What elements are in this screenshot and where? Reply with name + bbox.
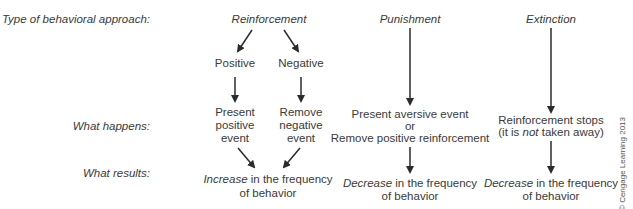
arrow-reinforcement-to-negative-icon [284, 30, 298, 51]
punishment-result-line2: of behavior [382, 190, 439, 203]
extinction-result-line2: of behavior [523, 190, 580, 203]
arrow-reinforcement-to-positive-icon [238, 30, 252, 51]
positive-happens-line2: positive [216, 119, 255, 132]
extinction-happens-emphasis: not [523, 126, 539, 138]
negative-happens-line1: Remove [280, 106, 323, 119]
reinforcement-title: Reinforcement [232, 13, 307, 26]
positive-happens-line1: Present [215, 106, 255, 119]
reinforcement-result-emphasis: Increase [203, 173, 247, 185]
punishment-result-rest: in the frequency [392, 177, 477, 189]
row-label-results: What results: [83, 167, 150, 180]
punishment-title: Punishment [380, 13, 441, 26]
arrow-present-positive-to-increase-icon [238, 148, 254, 167]
extinction-result-emphasis: Decrease [484, 177, 533, 189]
positive-label: Positive [215, 57, 255, 70]
copyright-notice: © Cengage Learning 2013 [618, 117, 627, 209]
negative-label: Negative [278, 57, 323, 70]
row-label-happens: What happens: [73, 120, 150, 133]
reinforcement-result-rest: in the frequency [248, 173, 333, 185]
behavioral-approaches-diagram: Type of behavioral approach: What happen… [0, 0, 633, 209]
reinforcement-result-line2: of behavior [240, 187, 297, 200]
positive-happens-line3: event [221, 132, 249, 145]
extinction-happens-line2: (it is not taken away) [498, 126, 603, 139]
extinction-result-rest: in the frequency [533, 177, 618, 189]
reinforcement-result-line1: Increase in the frequency [203, 173, 332, 186]
negative-happens-line3: event [287, 132, 315, 145]
extinction-happens-prefix: (it is [498, 126, 522, 138]
row-label-approach: Type of behavioral approach: [2, 13, 150, 26]
negative-happens-line2: negative [279, 119, 322, 132]
punishment-happens-line3: Remove positive reinforcement [331, 132, 490, 145]
arrow-remove-negative-to-increase-icon [284, 148, 300, 167]
extinction-result-line1: Decrease in the frequency [484, 177, 618, 190]
extinction-title: Extinction [526, 13, 576, 26]
punishment-result-emphasis: Decrease [343, 177, 392, 189]
extinction-happens-suffix: taken away) [539, 126, 604, 138]
punishment-result-line1: Decrease in the frequency [343, 177, 477, 190]
